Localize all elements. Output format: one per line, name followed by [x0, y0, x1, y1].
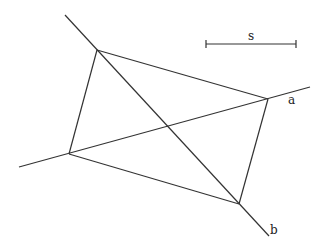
line-b-label: b	[270, 223, 278, 237]
scale-label: s	[248, 29, 254, 43]
side-left	[69, 50, 97, 154]
line-a-label: a	[288, 93, 295, 107]
side-right	[239, 99, 268, 204]
line-b	[65, 15, 269, 236]
side-top	[97, 50, 268, 99]
side-bottom	[69, 154, 239, 204]
line-a	[19, 87, 310, 167]
geometry-diagram: s a b	[0, 0, 324, 250]
